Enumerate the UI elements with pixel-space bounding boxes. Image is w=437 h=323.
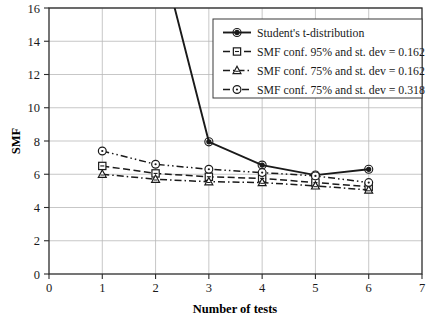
chart-container: 1614121086420 01234567 SMF Number of tes…	[0, 0, 437, 323]
data-point-marker-dot	[261, 171, 263, 173]
circle-open-icon-dot	[236, 88, 238, 90]
x-tick-label: 4	[259, 281, 266, 295]
y-axis-title: SMF	[9, 127, 23, 154]
legend-label: SMF conf. 75% and st. dev = 0.318	[257, 83, 425, 97]
data-point-marker-dot	[154, 163, 156, 165]
data-point-marker-dot	[208, 168, 210, 170]
y-tick-label: 4	[34, 201, 41, 215]
y-tick-label: 2	[34, 234, 40, 248]
data-point-marker	[367, 167, 371, 171]
y-tick-label: 14	[28, 35, 41, 49]
y-tick-label: 8	[34, 135, 40, 149]
data-point-marker	[207, 140, 211, 144]
y-tick-label: 10	[28, 101, 41, 115]
smf-line-chart: 1614121086420 01234567 SMF Number of tes…	[0, 0, 437, 323]
x-tick-label: 3	[206, 281, 212, 295]
legend-label: Student's t-distribution	[257, 26, 364, 40]
y-tick-label: 0	[34, 268, 40, 282]
data-point-marker-dot	[368, 181, 370, 183]
x-tick-label: 0	[46, 281, 52, 295]
x-tick-label: 6	[366, 281, 372, 295]
legend: Student's t-distributionSMF conf. 95% an…	[213, 19, 425, 98]
x-tick-label: 1	[99, 281, 105, 295]
legend-label: SMF conf. 75% and st. dev = 0.162	[257, 64, 425, 78]
y-tick-label: 12	[28, 68, 41, 82]
y-tick-label: 16	[28, 2, 41, 16]
data-point-marker-dot	[101, 150, 103, 152]
x-tick-label: 5	[312, 281, 318, 295]
x-tick-label: 7	[419, 281, 425, 295]
x-axis-title: Number of tests	[193, 302, 278, 316]
data-point-marker	[260, 163, 264, 167]
circle-filled-icon	[235, 30, 239, 34]
data-point-marker-dot	[314, 175, 316, 177]
y-tick-label: 6	[34, 168, 40, 182]
legend-label: SMF conf. 95% and st. dev = 0.162	[257, 45, 425, 59]
x-tick-label: 2	[152, 281, 158, 295]
